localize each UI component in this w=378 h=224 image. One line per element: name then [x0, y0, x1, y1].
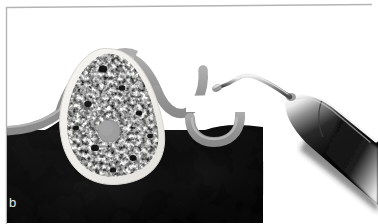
figure-panel: b — [0, 0, 378, 224]
illustration-canvas — [0, 0, 378, 224]
panel-label: b — [9, 196, 16, 209]
vascular-canal — [98, 120, 120, 142]
